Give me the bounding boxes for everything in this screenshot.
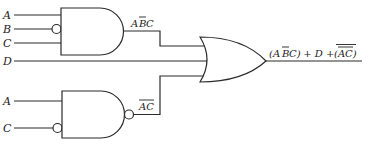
label-and-output-a: A: [130, 18, 138, 29]
output-expr-plus-d: + D +: [300, 48, 338, 59]
label-and-output-c: C: [146, 18, 154, 29]
label-input-b1: B: [2, 23, 11, 36]
output-expr-open: (A: [269, 48, 280, 59]
label-input-a1: A: [2, 9, 11, 22]
nand-output-bubble-icon: [125, 110, 134, 119]
or-gate-icon: [200, 37, 266, 82]
wire-and-output: [123, 31, 206, 46]
nand-gate-icon: [62, 91, 124, 138]
output-expr-ac: (AC): [334, 48, 357, 59]
inverter-bubble-b-icon: [52, 25, 61, 34]
label-nand-output: AC: [138, 101, 154, 112]
label-input-c2: C: [3, 122, 12, 135]
label-input-d: D: [2, 55, 12, 68]
logic-diagram: A B C D A C A B C AC (A B C) + D + (AC): [0, 0, 371, 146]
inverter-bubble-c-icon: [53, 124, 62, 133]
and-gate-icon: [61, 8, 124, 55]
label-input-c1: C: [3, 37, 12, 50]
label-input-a2: A: [2, 95, 11, 108]
output-expr-c-close: C): [289, 48, 301, 59]
